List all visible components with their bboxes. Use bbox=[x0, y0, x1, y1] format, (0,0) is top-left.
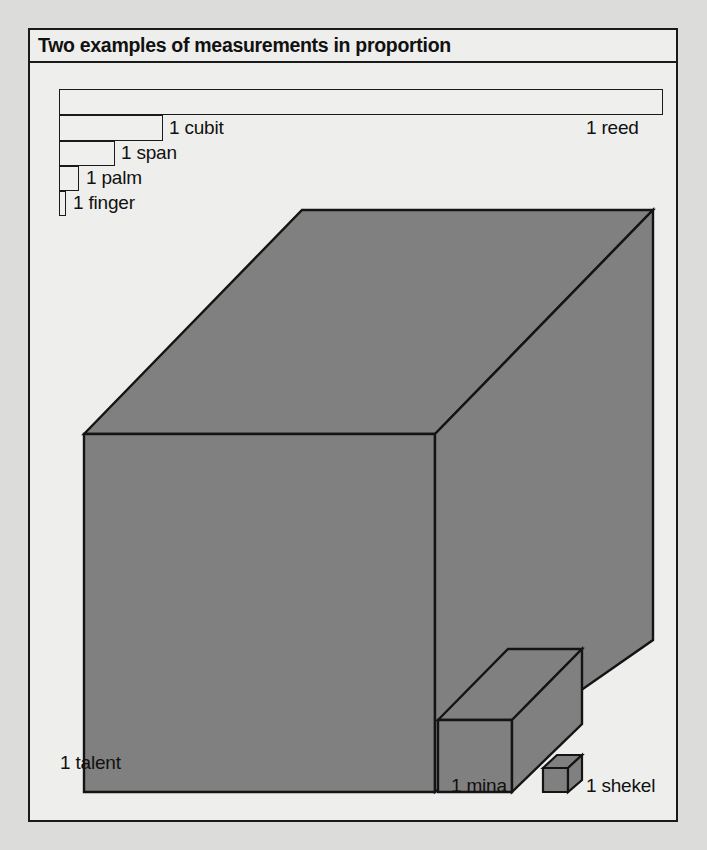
box-shekel-front-face bbox=[543, 768, 568, 792]
figure-root: Two examples of measurements in proporti… bbox=[0, 0, 707, 850]
box-label-mina: 1 mina bbox=[451, 775, 507, 797]
weight-measures-group: 1 talent 1 mina 1 shekel bbox=[30, 30, 676, 820]
box-label-shekel: 1 shekel bbox=[586, 775, 655, 797]
box-talent-front-face bbox=[84, 434, 435, 792]
box-shekel bbox=[543, 755, 582, 792]
weight-boxes-svg bbox=[30, 30, 676, 820]
figure-frame: Two examples of measurements in proporti… bbox=[28, 28, 678, 822]
box-label-talent: 1 talent bbox=[60, 752, 121, 774]
